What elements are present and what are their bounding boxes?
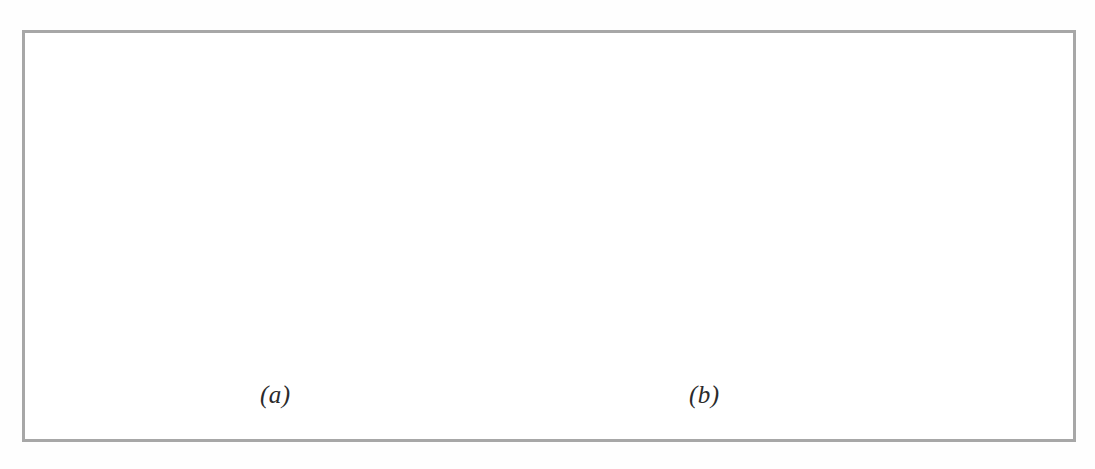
panel-label-b: (b) [689, 381, 720, 409]
panel-label-a: (a) [260, 381, 291, 409]
figure-frame-border [22, 30, 1076, 442]
figure-root: (a) (b) [0, 0, 1095, 469]
